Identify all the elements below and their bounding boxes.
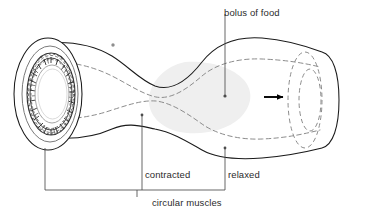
asterisk-mark [111, 43, 114, 46]
far-lumen-ellipse [299, 69, 321, 131]
label-bolus-of-food: bolus of food [224, 8, 280, 18]
label-relaxed: relaxed [228, 170, 260, 180]
label-circular-muscles: circular muscles [152, 198, 222, 208]
right-rim-arc [322, 52, 339, 148]
lumen-opening-ellipse [35, 65, 69, 123]
peristalsis-diagram: bolus of food contracted relaxed circula… [0, 0, 370, 216]
leader-bolus-dot [223, 94, 226, 97]
leader-contracted-dot [141, 114, 144, 117]
diagram-canvas [0, 0, 370, 216]
label-contracted: contracted [145, 170, 190, 180]
leader-relaxed-dot [224, 147, 227, 150]
far-opening [288, 52, 339, 148]
cut-end-ring [14, 38, 82, 150]
